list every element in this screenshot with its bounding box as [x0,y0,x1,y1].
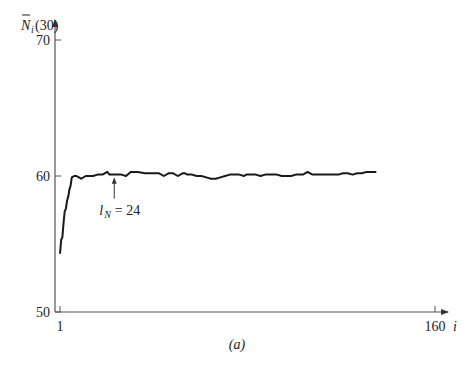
data-point [133,171,134,172]
data-point [88,175,89,176]
data-point [269,174,270,175]
data-point [69,189,70,190]
x-axis-label: i [453,319,457,334]
data-point [225,175,226,176]
data-point [291,175,292,176]
data-point [70,185,71,186]
data-point [276,174,277,175]
data-point [234,174,235,175]
data-point [64,211,65,212]
data-point [173,173,174,174]
data-point [192,174,193,175]
data-point [111,174,112,175]
data-point [206,177,207,178]
figure-caption: (a) [229,337,246,353]
data-point [187,174,188,175]
data-point [107,171,108,172]
data-point [61,239,62,240]
data-point [62,237,63,238]
annotation-label-main: l [99,203,103,218]
data-point [357,173,358,174]
data-point [102,174,103,175]
data-point [81,178,82,179]
data-point [76,175,77,176]
data-point [246,174,247,175]
data-point [215,178,216,179]
data-point [342,173,343,174]
chart: N i (30) 506070 1160 i l N = 24 (a) [0,0,474,366]
data-point [321,174,322,175]
data-point [239,174,240,175]
data-point [78,177,79,178]
data-point [229,174,230,175]
data-point [300,174,301,175]
data-point [144,173,145,174]
data-point [92,175,93,176]
data-point [116,174,117,175]
data-point [366,171,367,172]
data-point [243,175,244,176]
data-point [312,174,313,175]
y-axis-label-arg: (30) [35,18,59,34]
annotation-label: l N = 24 [99,203,140,220]
data-point [168,173,169,174]
data-point [74,175,75,176]
data-point [220,177,221,178]
data-point [331,174,332,175]
data-point [317,174,318,175]
x-tick-label: 1 [57,319,64,334]
data-point [272,174,273,175]
data-point [68,196,69,197]
data-point [63,223,64,224]
data-point [326,174,327,175]
data-point [163,175,164,176]
data-point [149,173,150,174]
data-point [286,175,287,176]
y-axis-label-main: N [20,18,31,33]
data-point [281,175,282,176]
data-point [59,253,60,254]
data-point [210,178,211,179]
data-point [375,171,376,172]
y-axis-label-sub: i [31,24,34,35]
data-point [67,200,68,201]
data-point [295,174,296,175]
data-point [154,173,155,174]
data-point [201,175,202,176]
data-point [352,174,353,175]
data-point [109,174,110,175]
data-point [71,177,72,178]
y-tick-label: 50 [36,305,50,320]
x-tick-label: 160 [425,319,446,334]
data-point [250,174,251,175]
data-point [182,173,183,174]
y-ticks: 506070 [36,33,61,320]
data-point [347,173,348,174]
data-point [177,175,178,176]
data-point [121,174,122,175]
data-point [159,173,160,174]
data-point [338,174,339,175]
data-point [302,174,303,175]
data-point [260,175,261,176]
data-point [125,175,126,176]
data-point [137,171,138,172]
data-point [335,174,336,175]
y-tick-label: 70 [36,33,50,48]
y-axis-label: N i (30) [20,15,59,35]
data-point [65,208,66,209]
data-point [85,175,86,176]
data-point [184,173,185,174]
x-ticks: 1160 [57,306,446,334]
annotation-label-rest: = 24 [111,203,140,218]
data-point [371,171,372,172]
data-point [130,171,131,172]
data-point [307,171,308,172]
data-point [265,174,266,175]
data-point [255,174,256,175]
data-point [196,175,197,176]
data-point [361,173,362,174]
data-point [97,174,98,175]
y-tick-label: 60 [36,169,50,184]
